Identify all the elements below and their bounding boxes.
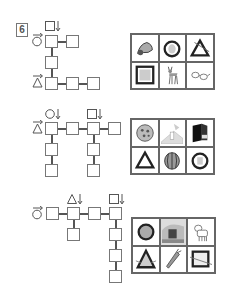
triangle-right-clue-icon	[32, 120, 44, 134]
circle-down-clue-icon	[45, 109, 61, 121]
picture-puppy[interactable]	[187, 218, 215, 246]
square-down-clue-icon	[45, 21, 61, 33]
connector	[59, 213, 67, 215]
puzzle-3-cell[interactable]	[46, 207, 59, 220]
hermit-crab-icon	[134, 37, 156, 59]
picture-carrot[interactable]	[160, 246, 188, 274]
square-frame-icon	[190, 248, 212, 270]
puzzle-2-cell[interactable]	[87, 143, 100, 156]
picture-round-tray[interactable]	[132, 218, 160, 246]
connector	[93, 156, 95, 164]
triangle-right-clue-icon	[32, 74, 44, 88]
framed-picture-icon	[134, 64, 156, 86]
pizza-icon	[134, 122, 156, 144]
connector	[115, 262, 117, 270]
carrot-icon	[162, 248, 184, 270]
connector	[51, 48, 53, 56]
connector	[115, 220, 117, 228]
triangle-icon	[189, 37, 211, 59]
picture-warning-triangle[interactable]	[131, 147, 159, 175]
puzzle-1-cell[interactable]	[66, 35, 79, 48]
puzzle-1-cell[interactable]	[87, 77, 100, 90]
connector	[79, 128, 87, 130]
connector	[51, 135, 53, 143]
warning-triangle-icon	[134, 149, 156, 171]
picture-glasses[interactable]	[186, 62, 214, 90]
wreath-icon	[189, 149, 211, 171]
puzzle-1-cell[interactable]	[66, 77, 79, 90]
puzzle-3-cell[interactable]	[109, 228, 122, 241]
connector	[73, 220, 75, 228]
puzzle-3-cell[interactable]	[88, 207, 101, 220]
picture-tent-triangle[interactable]	[132, 246, 160, 274]
connector	[80, 213, 88, 215]
picture-triangle-with-stick[interactable]	[186, 34, 214, 62]
tent-triangle-icon	[135, 248, 157, 270]
book-icon	[189, 122, 211, 144]
picture-framed-picture[interactable]	[131, 62, 159, 90]
mountain-tower-icon	[161, 122, 183, 144]
picture-wreath[interactable]	[186, 147, 214, 175]
picture-grid-2	[130, 118, 215, 175]
connector	[58, 83, 66, 85]
puzzle-3-cell[interactable]	[109, 249, 122, 262]
picture-hermit-crab[interactable]	[131, 34, 159, 62]
puzzle-2-cell[interactable]	[108, 122, 121, 135]
puzzle-3-cell[interactable]	[67, 228, 80, 241]
connector	[101, 213, 109, 215]
puzzle-2-cell[interactable]	[66, 122, 79, 135]
connector	[51, 156, 53, 164]
square-down-clue-icon	[109, 194, 125, 206]
puzzle-2-cell[interactable]	[87, 164, 100, 177]
owl-in-circle-icon	[161, 37, 183, 59]
glasses-icon	[189, 64, 211, 86]
exercise-number: 6	[16, 23, 28, 37]
puzzle-1-cell[interactable]	[45, 56, 58, 69]
picture-deer[interactable]	[159, 62, 187, 90]
house-scene-icon	[162, 221, 184, 243]
picture-house-scene[interactable]	[160, 218, 188, 246]
picture-watermelon[interactable]	[159, 147, 187, 175]
square-down-clue-icon	[87, 109, 103, 121]
triangle-down-clue-icon	[67, 194, 83, 206]
circle-right-clue-icon	[32, 33, 44, 47]
puzzle-1-cell[interactable]	[45, 77, 58, 90]
puzzle-3-cell[interactable]	[109, 207, 122, 220]
puzzle-2-cell[interactable]	[45, 164, 58, 177]
connector	[79, 83, 87, 85]
deer-icon	[161, 64, 183, 86]
puzzle-3-cell[interactable]	[67, 207, 80, 220]
picture-mountain-tower[interactable]	[159, 119, 187, 147]
connector	[58, 128, 66, 130]
circle-right-clue-icon	[32, 206, 44, 220]
connector	[115, 241, 117, 249]
connector	[51, 69, 53, 77]
picture-square-frame[interactable]	[187, 246, 215, 274]
picture-pizza[interactable]	[131, 119, 159, 147]
puzzle-2-cell[interactable]	[45, 122, 58, 135]
round-tray-icon	[135, 221, 157, 243]
connector	[100, 128, 108, 130]
connector	[93, 135, 95, 143]
puzzle-2-cell[interactable]	[45, 143, 58, 156]
watermelon-icon	[161, 149, 183, 171]
connector	[58, 41, 66, 43]
picture-open-book[interactable]	[186, 119, 214, 147]
puppy-icon	[190, 221, 212, 243]
puzzle-2-cell[interactable]	[87, 122, 100, 135]
puzzle-1-cell[interactable]	[45, 35, 58, 48]
picture-grid-1	[130, 33, 215, 90]
picture-owl-in-circle[interactable]	[159, 34, 187, 62]
picture-grid-3	[131, 217, 216, 274]
puzzle-3-cell[interactable]	[109, 270, 122, 283]
